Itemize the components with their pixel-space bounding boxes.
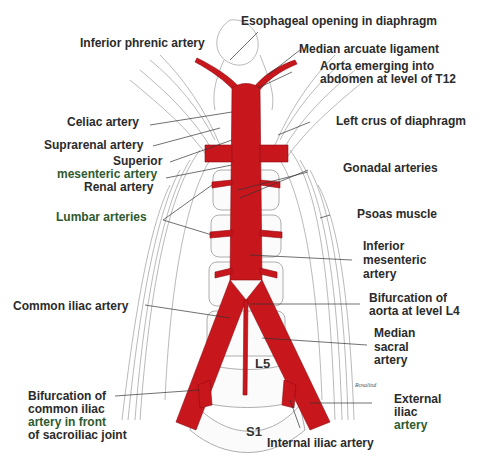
label-left-crus: Left crus of diaphragm: [336, 115, 466, 128]
label-inferior-mesenteric-line2: mesenteric: [363, 254, 426, 267]
label-bifurcation-aorta-line2: aorta at level L4: [369, 305, 460, 318]
label-external-iliac-line3: artery: [394, 419, 427, 432]
label-internal-iliac-artery: Internal iliac artery: [267, 437, 374, 450]
label-median-sacral-line3: artery: [374, 354, 407, 367]
label-celiac-artery: Celiac artery: [67, 116, 139, 129]
label-inferior-phrenic-artery: Inferior phrenic artery: [80, 37, 205, 50]
artist-signature: Rosalind: [355, 382, 376, 388]
vertebra-s1-label: S1: [246, 424, 262, 439]
label-common-iliac-artery: Common iliac artery: [13, 300, 128, 313]
label-suprarenal-artery: Suprarenal artery: [44, 139, 143, 152]
label-inferior-mesenteric-line1: Inferior: [363, 240, 404, 253]
label-aorta-emerging-line2: abdomen at level of T12: [320, 73, 456, 86]
label-inferior-mesenteric-line3: artery: [363, 268, 396, 281]
label-lumbar-arteries: Lumbar arteries: [56, 211, 147, 224]
label-psoas-muscle: Psoas muscle: [357, 208, 437, 221]
vertebra-l5-label: L5: [255, 356, 270, 371]
label-median-sacral-line1: Median: [374, 327, 415, 340]
label-renal-artery: Renal artery: [84, 181, 153, 194]
label-gonadal-arteries: Gonadal arteries: [343, 162, 438, 175]
label-median-arcuate-ligament: Median arcuate ligament: [299, 43, 439, 56]
label-bifurcation-common-line4: of sacroiliac joint: [28, 429, 127, 442]
label-esophageal-opening: Esophageal opening in diaphragm: [241, 15, 437, 28]
